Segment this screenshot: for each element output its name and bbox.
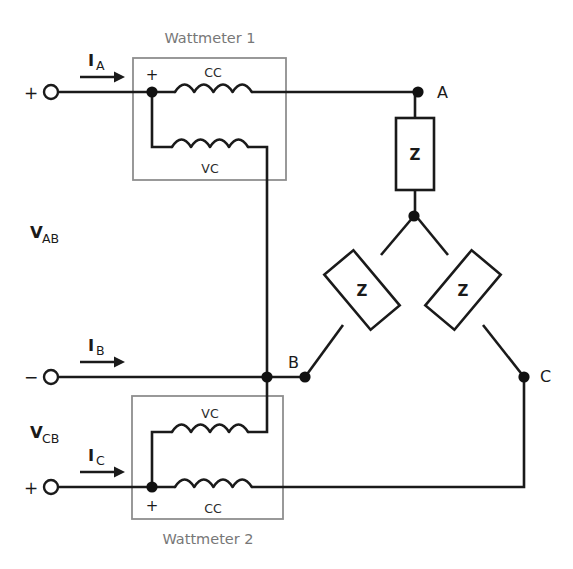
wattmeter-1-vc-label: VC: [201, 161, 219, 176]
node-a-label: A: [437, 83, 448, 102]
voltage-label-cb: V CB: [30, 423, 59, 446]
junction-dot-w1-cc: [146, 86, 157, 97]
node-c-label: C: [540, 367, 551, 386]
terminal-a-circle[interactable]: [44, 85, 58, 99]
node-a-dot: [412, 86, 423, 97]
current-label-c: I C: [88, 446, 105, 468]
voltage-label-ab: V AB: [30, 223, 59, 246]
voltage-label-cb-subscript: CB: [42, 431, 59, 446]
current-label-c-symbol: I: [88, 446, 94, 465]
terminal-c-circle[interactable]: [44, 480, 58, 494]
wattmeter-2-cc-coil: [175, 480, 252, 488]
terminal-b-circle[interactable]: [44, 370, 58, 384]
junction-dot-line-b: [261, 371, 272, 382]
current-label-c-subscript: C: [96, 453, 105, 468]
voltage-label-ab-subscript: AB: [42, 231, 59, 246]
wire-w1-vc-right-down: [248, 147, 267, 377]
wire-z-b-to-node-b: [305, 325, 343, 377]
wattmeter-1-cc-label: CC: [204, 65, 222, 80]
circuit-diagram: Wattmeter 1 Wattmeter 2 CC VC VC CC + + …: [0, 0, 573, 569]
current-label-a-symbol: I: [88, 51, 94, 70]
terminal-c-sign: +: [24, 478, 38, 498]
wattmeter-2-cc-label: CC: [204, 501, 222, 516]
wattmeter-1-cc-coil: [175, 85, 252, 93]
node-c-dot: [518, 371, 529, 382]
impedance-z-a-label: Z: [410, 146, 421, 164]
current-arrow-b: [80, 357, 125, 368]
node-b-label: B: [288, 353, 299, 372]
impedance-z-b-label: Z: [357, 282, 368, 300]
current-label-a: I A: [88, 51, 105, 73]
terminal-a-sign: +: [24, 83, 38, 103]
junction-dot-w2-cc: [146, 481, 157, 492]
current-label-a-subscript: A: [96, 58, 105, 73]
wire-z-c-to-node-c: [483, 325, 524, 377]
current-label-b-symbol: I: [88, 336, 94, 355]
wattmeter-2-polarity-mark: +: [146, 497, 159, 515]
current-label-b-subscript: B: [96, 343, 105, 358]
node-b-dot: [299, 371, 310, 382]
terminal-b-sign: −: [24, 367, 38, 387]
wattmeter-2-vc-label: VC: [201, 406, 219, 421]
wire-line-c-right-up: [252, 377, 524, 487]
wattmeter-2-vc-coil: [172, 425, 248, 433]
current-arrow-a: [80, 72, 125, 83]
wattmeter-1-vc-coil: [172, 140, 248, 148]
impedance-z-c-label: Z: [458, 282, 469, 300]
current-arrow-c: [80, 467, 125, 478]
wattmeter-1-label: Wattmeter 1: [164, 30, 255, 46]
wattmeter-2-label: Wattmeter 2: [162, 531, 253, 547]
wire-neutral-to-z-c: [416, 216, 448, 255]
node-neutral-dot: [408, 210, 419, 221]
wire-w2-vc-left-down: [152, 432, 172, 487]
wire-w2-vc-right: [248, 377, 267, 432]
wire-neutral-to-z-b: [381, 216, 414, 255]
current-label-b: I B: [88, 336, 105, 358]
wattmeter-1-polarity-mark: +: [146, 66, 159, 84]
wire-w1-vc-left: [152, 92, 172, 147]
